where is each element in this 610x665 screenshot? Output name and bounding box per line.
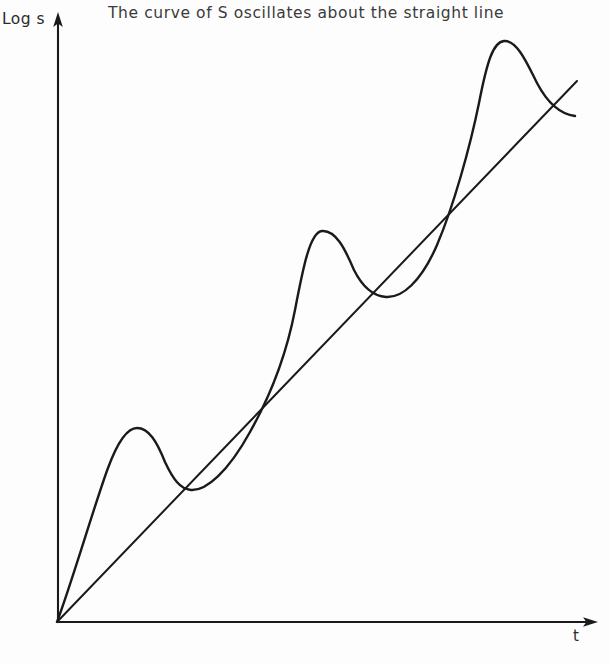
x-axis-label: t [573,627,579,645]
x-axis-group [57,617,598,627]
figure-title: The curve of S oscillates about the stra… [108,4,504,22]
y-axis-group [53,12,63,622]
figure-container: The curve of S oscillates about the stra… [0,0,610,665]
oscillating-s-curve [57,41,575,622]
oscillation-diagram [0,0,610,665]
straight-reference-line [57,81,577,622]
y-axis-label: Log s [2,10,45,28]
